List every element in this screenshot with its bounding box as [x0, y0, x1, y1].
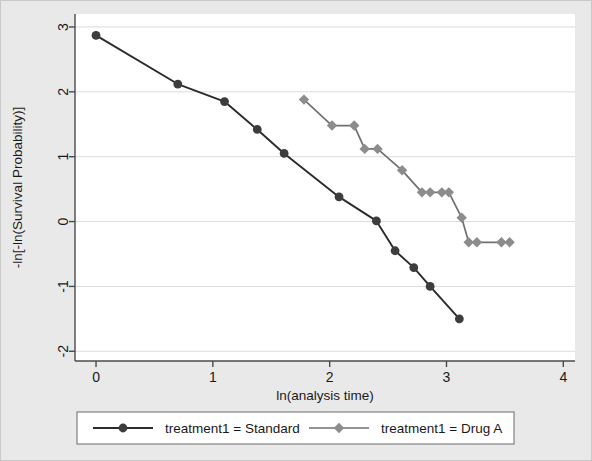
survival-loglog-chart: -2-1012301234ln(analysis time)-ln[-ln(Su…: [0, 0, 592, 461]
data-point-0-1: [173, 80, 182, 89]
y-axis-title: -ln[-ln(Survival Probability)]: [10, 107, 25, 268]
x-tick-label-2: 2: [326, 369, 334, 385]
data-point-0-9: [426, 282, 435, 291]
data-point-0-8: [409, 263, 418, 272]
y-tick-label-3: 3: [55, 23, 71, 31]
legend-label-0: treatment1 = Standard: [165, 421, 300, 436]
x-axis-title: ln(analysis time): [276, 388, 374, 403]
figure-container: -2-1012301234ln(analysis time)-ln[-ln(Su…: [0, 0, 592, 461]
data-point-0-6: [372, 217, 381, 226]
data-point-0-10: [455, 314, 464, 323]
legend-marker-0: [119, 424, 128, 433]
y-tick-label--1: -1: [55, 280, 71, 293]
y-tick-label-2: 2: [55, 88, 71, 96]
x-tick-label-1: 1: [209, 369, 217, 385]
data-point-0-0: [92, 31, 101, 40]
data-point-0-3: [253, 125, 262, 134]
y-tick-label-1: 1: [55, 153, 71, 161]
data-point-0-7: [391, 246, 400, 255]
x-tick-label-0: 0: [92, 369, 100, 385]
y-tick-label--2: -2: [55, 345, 71, 358]
data-point-0-2: [220, 97, 229, 106]
data-point-0-4: [280, 149, 289, 158]
plot-background: [75, 14, 575, 361]
x-tick-label-4: 4: [559, 369, 567, 385]
y-tick-label-0: 0: [55, 217, 71, 225]
data-point-0-5: [335, 193, 344, 202]
x-tick-label-3: 3: [443, 369, 451, 385]
legend-label-1: treatment1 = Drug A: [381, 421, 502, 436]
